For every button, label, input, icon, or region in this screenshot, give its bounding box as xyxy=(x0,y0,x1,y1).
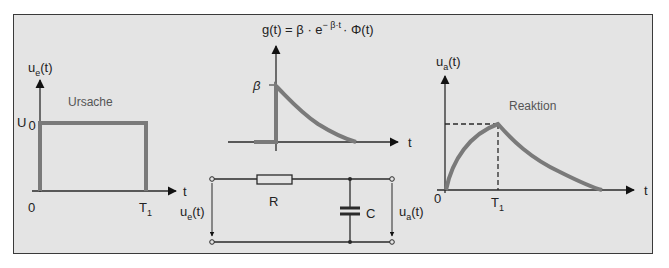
impulse-formula: g(t) = β · e− β·t· Φ(t) xyxy=(262,20,374,37)
output-y-axis-label: ua(t) xyxy=(436,54,461,72)
impulse-x-axis-label: t xyxy=(408,135,412,150)
terminal-out-bottom xyxy=(390,240,395,245)
output-t1-label: T1 xyxy=(491,195,504,213)
resistor xyxy=(257,175,292,184)
capacitor-label: C xyxy=(366,206,375,221)
input-y-axis-label: ue(t) xyxy=(28,60,53,78)
input-level-label: U0 xyxy=(17,115,36,133)
resistor-label: R xyxy=(269,194,278,209)
output-response-curve xyxy=(446,124,602,190)
input-x-axis-label: t xyxy=(183,184,187,199)
impulse-beta-label: β xyxy=(252,78,261,93)
terminal-in-top xyxy=(210,177,215,182)
output-voltage-label: ua(t) xyxy=(399,204,424,222)
rc-lowpass-diagram: ue(t) t U0 0 T1 Ursache g(t) = β · e− β·… xyxy=(0,0,669,268)
input-caption: Ursache xyxy=(68,95,113,109)
impulse-response-plot: g(t) = β · e− β·t· Φ(t) β t xyxy=(228,20,412,151)
impulse-response-curve xyxy=(254,86,356,142)
output-caption: Reaktion xyxy=(509,99,556,113)
input-voltage-label: ue(t) xyxy=(180,204,205,222)
input-t1-label: T1 xyxy=(139,200,152,218)
input-rect-pulse xyxy=(40,123,146,191)
input-origin-label: 0 xyxy=(28,200,35,215)
output-origin-label: 0 xyxy=(434,191,441,206)
terminal-in-bottom xyxy=(210,240,215,245)
output-signal-plot: ua(t) t 0 T1 Reaktion xyxy=(434,54,648,213)
output-x-axis-label: t xyxy=(644,183,648,198)
input-signal-plot: ue(t) t U0 0 T1 Ursache xyxy=(17,60,187,218)
terminal-out-top xyxy=(390,177,395,182)
rc-circuit: R C ue(t) ua(t) xyxy=(180,175,424,244)
